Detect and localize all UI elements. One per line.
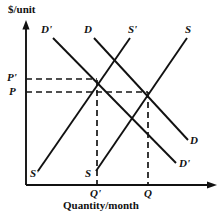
curve-label-s-end: S bbox=[85, 168, 91, 179]
curve-label-s-prime-end: S' bbox=[30, 168, 39, 179]
x-axis-title: Quantity/month bbox=[63, 200, 139, 211]
curve-label-d-prime-top: D' bbox=[41, 24, 52, 35]
quantity-label-q: Q bbox=[144, 188, 152, 199]
curve-label-d-end: D bbox=[190, 135, 198, 146]
curve-s-prime bbox=[38, 38, 130, 171]
curve-label-d-prime-end: D' bbox=[179, 158, 190, 169]
supply-demand-figure: $/unit Quantity/month D' D S' S D D' S' … bbox=[0, 0, 224, 218]
price-label-p: P bbox=[9, 86, 16, 97]
y-axis-title: $/unit bbox=[8, 4, 36, 15]
curve-s bbox=[96, 38, 187, 171]
curve-label-s-prime-top: S' bbox=[128, 24, 137, 35]
curve-label-s-top: S bbox=[185, 24, 191, 35]
price-label-p-prime: P' bbox=[7, 72, 17, 83]
y-axis-arrowhead bbox=[22, 20, 29, 30]
x-axis-arrowhead bbox=[207, 181, 217, 188]
curve-label-d-top: D bbox=[84, 24, 92, 35]
curve-d bbox=[94, 38, 188, 140]
quantity-label-q-prime: Q' bbox=[90, 188, 101, 199]
